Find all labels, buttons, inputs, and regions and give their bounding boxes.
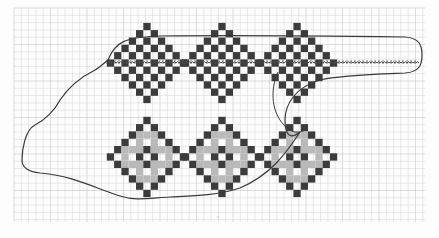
pencil-mark	[217, 216, 219, 218]
pattern-canvas	[0, 0, 439, 238]
graph-paper	[0, 0, 439, 238]
